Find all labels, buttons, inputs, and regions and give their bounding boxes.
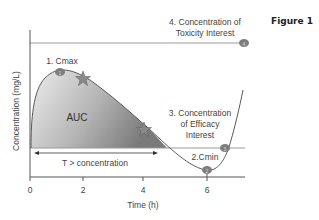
toxicity-label-line2: Toxicity Interest — [150, 28, 260, 38]
marker-3-efficacy: 3 — [220, 144, 230, 152]
auc-label: AUC — [62, 113, 92, 123]
svg-text:1: 1 — [59, 70, 62, 76]
x-tick-label-6: 6 — [203, 185, 211, 195]
cmin-label: 2.Cmin — [185, 152, 225, 162]
arrow-head-right-icon — [153, 151, 158, 155]
marker-1-cmax: 1 — [55, 68, 65, 76]
figure-title: Figure 1 — [271, 16, 313, 26]
svg-text:3: 3 — [224, 146, 227, 152]
toxicity-label-line1: 4. Concentration of — [150, 17, 260, 27]
marker-4-toxicity: 4 — [239, 39, 249, 47]
x-axis-label: Time (h) — [118, 200, 168, 210]
svg-text:2: 2 — [206, 168, 209, 174]
x-tick-label-2: 2 — [79, 185, 87, 195]
auc-area — [31, 70, 167, 148]
cmax-label: 1. Cmax — [42, 56, 82, 66]
efficacy-label-line1: 3. Concentration — [160, 108, 240, 118]
arrow-head-left-icon — [34, 151, 39, 155]
marker-2-cmin: 2 — [202, 166, 212, 174]
x-tick-label-0: 0 — [26, 185, 34, 195]
svg-text:4: 4 — [243, 41, 246, 47]
efficacy-label-line3: Interest — [160, 130, 240, 140]
t-above-concentration-label: T > concentration — [55, 158, 135, 168]
efficacy-label-line2: of Efficacy — [160, 119, 240, 129]
y-axis-label: Concentration (mg/L) — [11, 61, 21, 161]
x-tick-label-4: 4 — [139, 185, 147, 195]
